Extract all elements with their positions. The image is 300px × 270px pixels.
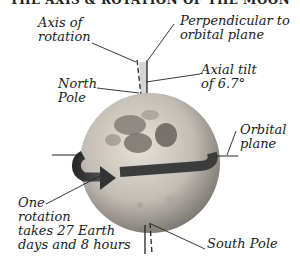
label-orbital-plane: Orbital plane bbox=[240, 123, 286, 151]
label-axis-of-rotation: Axis of rotation bbox=[38, 16, 91, 44]
leader-perpendicular bbox=[148, 24, 174, 60]
label-north-pole: North Pole bbox=[58, 77, 97, 105]
leader-orbital-plane bbox=[227, 131, 236, 155]
leader-axis-of-rotation bbox=[92, 43, 136, 62]
axial-tilt-wedge bbox=[139, 62, 147, 95]
label-one-rotation: One rotation takes 27 Earth days and 8 h… bbox=[18, 196, 131, 252]
label-perpendicular: Perpendicular to orbital plane bbox=[180, 14, 290, 42]
label-south-pole: South Pole bbox=[207, 237, 278, 251]
leader-axial-tilt bbox=[146, 74, 200, 82]
leader-north-pole bbox=[97, 88, 139, 93]
leader-south-pole bbox=[151, 224, 205, 249]
label-axial-tilt: Axial tilt of 6.7° bbox=[201, 63, 257, 91]
